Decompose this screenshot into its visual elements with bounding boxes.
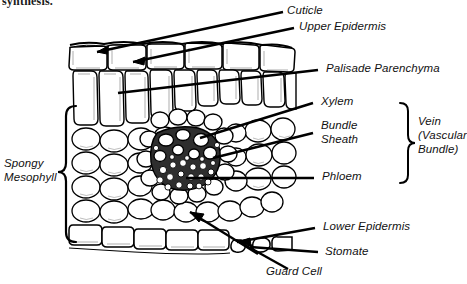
label-upper-epidermis: Upper Epidermis	[299, 20, 386, 33]
label-phloem: Phloem	[322, 170, 362, 183]
vein-brace	[400, 103, 415, 183]
upper-epidermis-layer	[69, 43, 295, 72]
label-lower-epidermis: Lower Epidermis	[323, 220, 410, 233]
page-cutoff-text: synthesis.	[2, 0, 53, 9]
label-cuticle: Cuticle	[287, 4, 323, 17]
label-stomate: Stomate	[325, 245, 369, 258]
label-xylem: Xylem	[321, 95, 353, 108]
spongy-mesophyll-brace	[58, 106, 76, 242]
label-bundle-sheath: Bundle Sheath	[321, 118, 358, 146]
label-guard-cell: Guard Cell	[266, 265, 322, 278]
vascular-bundle-core	[151, 127, 221, 190]
label-palisade-parenchyma: Palisade Parenchyma	[326, 62, 440, 75]
label-spongy-mesophyll: Spongy Mesophyll	[4, 156, 57, 184]
label-vein: Vein (Vascular Bundle)	[418, 114, 467, 156]
